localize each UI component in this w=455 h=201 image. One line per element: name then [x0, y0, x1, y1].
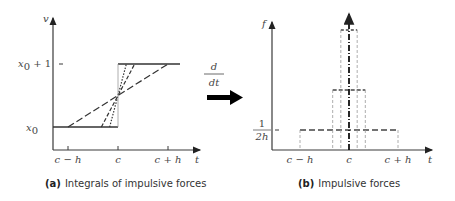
pulses-b — [300, 14, 398, 150]
caption-a: (a)Integrals of impulsive forces — [45, 178, 206, 189]
x-tick-label-b-2: c + h — [385, 154, 412, 165]
x-axis-label-a: t — [195, 154, 200, 165]
y-axis-label-a: v — [43, 13, 49, 24]
x-tick-label-a-1: c — [115, 154, 121, 165]
y-tick-numerator-b: 1 — [259, 118, 265, 129]
y-tick-label-a-0: x0 — [26, 122, 38, 136]
operator-denominator: dt — [209, 77, 220, 88]
caption-b: (b)Impulsive forces — [298, 178, 400, 189]
derivative-operator: d dt — [204, 61, 243, 105]
panel-a: v t c − h c c + h x0 x0 + 1 — [18, 13, 200, 165]
panel-b: f t c − h c c + h 1 2h — [253, 14, 433, 165]
x-tick-label-b-0: c − h — [287, 154, 314, 165]
y-axis-label-b: f — [261, 18, 268, 29]
operator-numerator: d — [211, 61, 217, 72]
y-tick-denominator-b: 2h — [255, 131, 269, 142]
y-tick-label-a-1: x0 + 1 — [18, 58, 51, 72]
x-tick-label-b-1: c — [346, 154, 352, 165]
x-tick-label-a-2: c + h — [155, 154, 182, 165]
x-tick-label-a-0: c − h — [55, 154, 82, 165]
curves-a — [53, 64, 180, 127]
x-axis-label-b: t — [428, 154, 433, 165]
right-arrow-icon — [207, 90, 243, 105]
figure-canvas: v t c − h c c + h x0 x0 + 1 d dt f — [0, 0, 455, 201]
